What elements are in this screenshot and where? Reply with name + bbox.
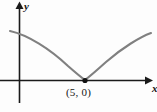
x-axis xyxy=(0,77,153,85)
curve-left-branch xyxy=(10,31,85,80)
vertex-point-marker xyxy=(82,78,87,83)
y-axis-arrowhead xyxy=(16,2,24,10)
y-axis-label: y xyxy=(24,1,29,12)
y-axis xyxy=(16,2,24,104)
vertex-point-label: (5, 0) xyxy=(66,86,91,98)
graph-figure: y x (5, 0) xyxy=(0,0,157,112)
x-axis-label: x xyxy=(152,83,157,94)
curve-right-branch xyxy=(85,33,151,80)
